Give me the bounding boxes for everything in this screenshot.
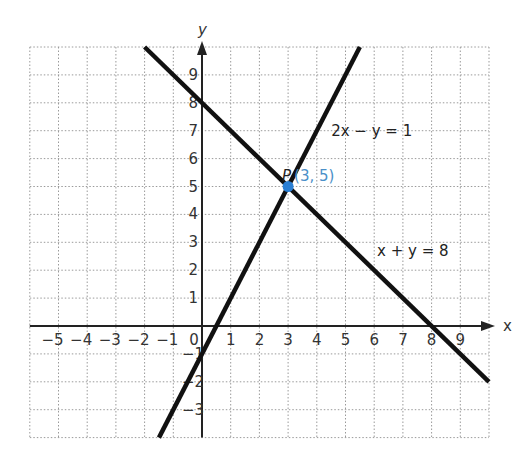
y-tick-label: 9 — [188, 66, 198, 84]
y-axis-arrow-icon — [197, 41, 207, 55]
y-tick-label: 2 — [188, 261, 198, 279]
x-tick-label: −1 — [156, 331, 178, 349]
x-axis-label: x — [503, 317, 512, 335]
x-tick-label: 8 — [427, 331, 437, 349]
x-tick-label: 9 — [456, 331, 466, 349]
y-tick-label: 5 — [188, 178, 198, 196]
y-tick-label: 1 — [188, 289, 198, 307]
x-tick-label: −5 — [41, 331, 63, 349]
x-tick-label: −3 — [99, 331, 121, 349]
y-tick-label: 6 — [188, 150, 198, 168]
line-label-2x-minus-y: 2x − y = 1 — [331, 122, 412, 140]
y-axis-label: y — [197, 21, 208, 39]
x-tick-labels: −5−4−3−2−10123456789 — [41, 331, 465, 349]
x-tick-label: −2 — [127, 331, 149, 349]
x-tick-label: 6 — [369, 331, 379, 349]
x-tick-label: 4 — [312, 331, 322, 349]
x-tick-label: 1 — [226, 331, 236, 349]
x-axis-arrow-icon — [481, 321, 495, 331]
x-tick-label: −4 — [70, 331, 92, 349]
points: P(3, 5) — [282, 167, 334, 193]
y-tick-label: 4 — [188, 205, 198, 223]
axes: x y — [30, 21, 512, 438]
x-tick-label: 7 — [398, 331, 408, 349]
x-tick-label: 3 — [283, 331, 293, 349]
line-label-x-plus-y: x + y = 8 — [377, 242, 449, 260]
point-coordinate-label: (3, 5) — [294, 167, 334, 185]
y-tick-label: 3 — [188, 233, 198, 251]
x-tick-label: 2 — [255, 331, 265, 349]
x-tick-label: 5 — [341, 331, 351, 349]
y-tick-label: −3 — [182, 401, 204, 419]
y-tick-label: 7 — [188, 122, 198, 140]
point-label: P — [282, 167, 292, 185]
coordinate-plane: x y −5−4−3−2−10123456789 987654321−1−2−3… — [0, 0, 528, 460]
